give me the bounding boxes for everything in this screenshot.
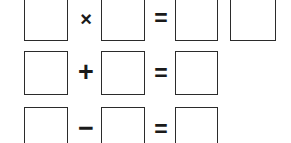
multiplication-operator: ×	[76, 9, 96, 29]
equals-sign-subtraction: =	[151, 118, 171, 141]
addition-operator: +	[76, 59, 96, 86]
answer-box-multiplication-operand-1[interactable]	[24, 0, 68, 41]
equation-row-multiplication: × =	[0, 0, 291, 41]
answer-box-multiplication-result-tens[interactable]	[175, 0, 218, 41]
equation-row-subtraction: − =	[0, 107, 291, 143]
answer-box-subtraction-operand-2[interactable]	[101, 107, 145, 143]
worksheet-canvas: × = + = − =	[0, 0, 291, 143]
answer-box-subtraction-operand-1[interactable]	[24, 107, 68, 143]
equation-row-addition: + =	[0, 51, 291, 95]
answer-box-addition-operand-1[interactable]	[24, 51, 68, 95]
equals-sign-addition: =	[151, 62, 171, 85]
answer-box-subtraction-result[interactable]	[175, 107, 218, 143]
subtraction-operator: −	[76, 115, 96, 142]
equals-sign-multiplication: =	[151, 7, 171, 30]
answer-box-multiplication-operand-2[interactable]	[101, 0, 145, 41]
answer-box-addition-result[interactable]	[175, 51, 218, 95]
answer-box-addition-operand-2[interactable]	[101, 51, 145, 95]
answer-box-multiplication-result-ones[interactable]	[230, 0, 276, 41]
